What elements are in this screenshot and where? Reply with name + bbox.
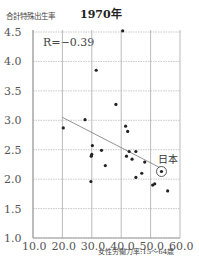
data-point (124, 125, 127, 128)
x-tick-label: 30.0 (81, 240, 106, 253)
data-point (90, 153, 93, 156)
data-point (126, 130, 129, 133)
x-tick-label: 60.0 (169, 240, 194, 253)
x-tick-label: 20.0 (51, 240, 76, 253)
data-point (114, 103, 117, 106)
data-point (83, 118, 86, 121)
data-point (128, 150, 131, 153)
data-point (143, 160, 146, 163)
data-point (104, 164, 107, 167)
japan-label: 日本 (158, 153, 178, 165)
data-point (62, 126, 65, 129)
data-point (134, 150, 137, 153)
y-tick-label: 4.0 (4, 55, 22, 68)
y-tick-label: 2.5 (4, 144, 22, 157)
data-point (153, 182, 156, 185)
x-tick-label: 10.0 (22, 240, 47, 253)
data-point (91, 144, 94, 147)
x-tick-label: 50.0 (140, 240, 165, 253)
data-point (121, 29, 124, 32)
y-tick-label: 3.5 (4, 85, 22, 98)
y-tick-label: 1.5 (4, 203, 22, 216)
data-point (130, 158, 133, 161)
y-tick-label: 2.0 (4, 173, 22, 186)
x-tick-label: 40.0 (110, 240, 135, 253)
y-tick-label: 4.5 (4, 26, 22, 39)
data-point (166, 189, 169, 192)
trend-line (62, 117, 159, 167)
y-tick-label: 1.0 (4, 232, 22, 245)
data-point (100, 149, 103, 152)
data-point (134, 176, 137, 179)
scatter-plot: 1.01.52.02.53.03.54.04.510.020.030.040.0… (0, 0, 199, 274)
data-point (125, 155, 128, 158)
data-point (140, 172, 143, 175)
data-point (95, 69, 98, 72)
y-tick-label: 3.0 (4, 114, 22, 127)
data-point (89, 180, 92, 183)
data-point (160, 170, 163, 173)
